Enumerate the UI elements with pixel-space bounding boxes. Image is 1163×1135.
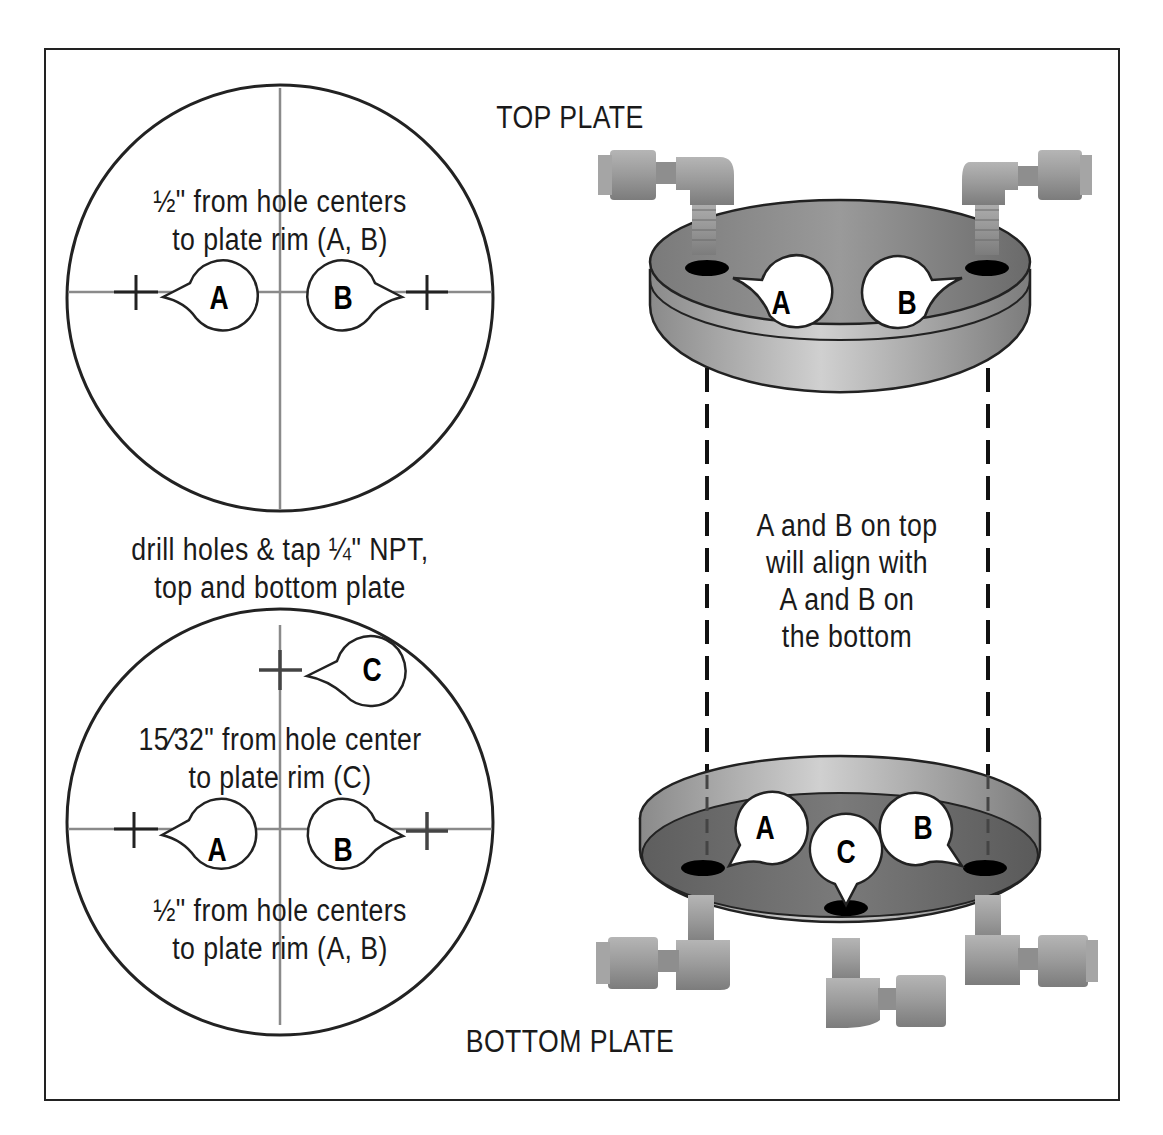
hole-a [685, 260, 729, 276]
drill-note-line2: top and bottom plate [99, 570, 460, 606]
bottom-circle-marker-c: C [356, 650, 387, 689]
top-plate-marker-b: B [891, 283, 922, 322]
top-plate-template [67, 85, 493, 511]
top-circle-note-line1: ½" from hole centers [117, 184, 444, 220]
drill-note-line1: drill holes & tap ¼" NPT, [99, 532, 460, 568]
bottom-plate-label: BOTTOM PLATE [441, 1024, 699, 1060]
bottom-plate-illustration [596, 756, 1098, 1028]
bottom-circle-marker-a: A [201, 830, 232, 869]
alignment-note-line2: will align with [740, 545, 955, 581]
alignment-note-line3: A and B on [740, 582, 955, 618]
bottom-plate-marker-b: B [907, 808, 938, 847]
top-plate-illustration [598, 150, 1092, 392]
hole-b [963, 860, 1007, 876]
hole-a [681, 860, 725, 876]
bottom-plate-marker-a: A [749, 808, 780, 847]
bottom-circle-note-c-line1: 15⁄32" from hole center [117, 722, 444, 758]
bottom-plate-template [67, 609, 493, 1035]
elbow-fitting-right [962, 150, 1092, 255]
elbow-fitting-left [596, 895, 730, 990]
top-circle-marker-a: A [203, 278, 234, 317]
top-plate-marker-a: A [765, 283, 796, 322]
elbow-fitting-center [826, 938, 946, 1028]
bottom-circle-note-c-line2: to plate rim (C) [117, 760, 444, 796]
bottom-plate-marker-c: C [830, 832, 861, 871]
elbow-fitting-right [965, 895, 1098, 987]
bottom-circle-marker-b: B [327, 830, 358, 869]
hole-b [965, 260, 1009, 276]
alignment-note-line4: the bottom [740, 619, 955, 655]
bottom-circle-note-ab-line1: ½" from hole centers [117, 893, 444, 929]
top-circle-marker-b: B [327, 278, 358, 317]
bottom-circle-note-ab-line2: to plate rim (A, B) [117, 931, 444, 967]
top-plate-label: TOP PLATE [484, 100, 656, 136]
alignment-note-line1: A and B on top [740, 508, 955, 544]
top-circle-note-line2: to plate rim (A, B) [117, 222, 444, 258]
